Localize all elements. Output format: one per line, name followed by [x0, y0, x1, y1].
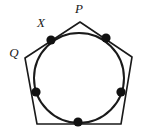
tangent-dot-right [116, 87, 125, 96]
tangent-dot-left [31, 87, 40, 96]
geometry-figure: P X Q [0, 0, 144, 130]
tangent-dot-bottom [73, 117, 82, 126]
label-Q: Q [9, 45, 19, 60]
label-X: X [36, 15, 46, 30]
label-P: P [74, 1, 83, 16]
geometry-diagram: P X Q [0, 0, 144, 130]
tangent-dot-X [46, 35, 55, 44]
tangent-dot-upper-right [101, 33, 110, 42]
